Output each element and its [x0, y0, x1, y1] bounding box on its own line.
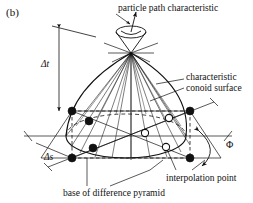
label-delta-t: Δt [41, 59, 49, 70]
particle-path-arrow [131, 12, 136, 32]
conoid-outline [66, 53, 187, 158]
callout-leader-base-pyramid [87, 158, 163, 186]
label-characteristic-conoid-surface: characteristic conoid surface [186, 72, 242, 93]
delta-s-leader [36, 143, 72, 158]
callout-leader-particle-path [116, 14, 130, 24]
label-base-of-difference-pyramid: base of difference pyramid [63, 188, 165, 199]
label-phi-angle: Φ [226, 139, 233, 150]
plane-axis-lines [24, 98, 232, 171]
conoid-label-line-2: conoid surface [186, 83, 242, 93]
label-particle-path-characteristic: particle path characteristic [118, 3, 218, 14]
label-interpolation-point: interpolation point [166, 173, 236, 184]
conoid-back-generators [76, 53, 181, 126]
panel-label: (b) [6, 6, 19, 18]
figure-panel-b: (b) particle path characteristic charact… [0, 0, 253, 203]
conoid-radial-generators [66, 53, 190, 158]
delta-t-dimension-arrow [52, 26, 96, 111]
conoid-label-line-1: characteristic [186, 72, 237, 82]
label-delta-s: Δs [44, 152, 53, 163]
